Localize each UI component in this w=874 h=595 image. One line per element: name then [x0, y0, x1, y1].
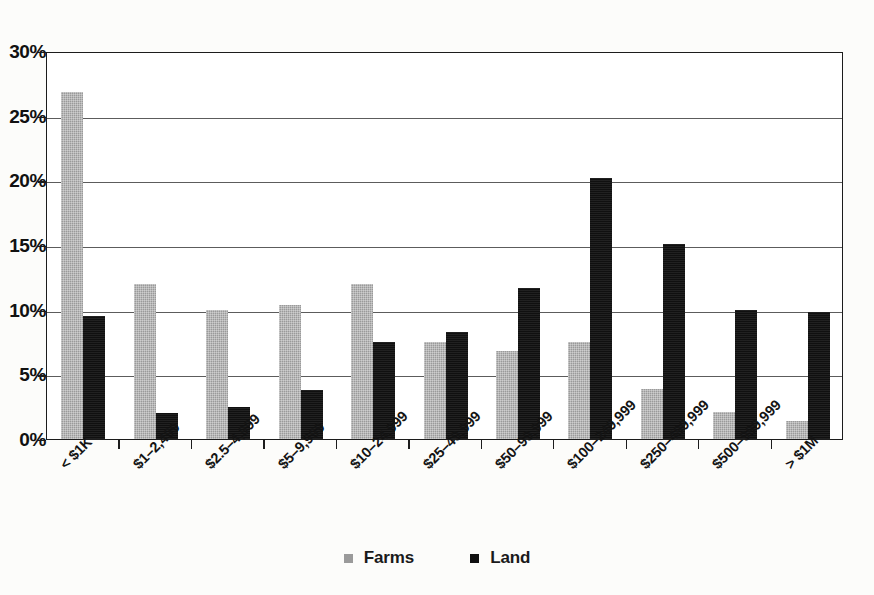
bar-group	[713, 53, 757, 439]
x-axis-tick-mark	[408, 440, 409, 449]
y-axis-tick-mark	[38, 117, 46, 118]
chart-screenshot: 30%25%20%15%10%5%0% < $1K$1–2,499$2.5–4,…	[0, 0, 874, 595]
x-axis-tick-mark	[481, 440, 482, 449]
bar-land	[590, 178, 612, 439]
bar-farms	[568, 342, 590, 439]
y-axis-tick-mark	[38, 311, 46, 312]
plot-area	[46, 52, 843, 440]
x-axis-tick-mark	[336, 440, 337, 449]
bar-farms	[496, 351, 518, 439]
y-axis-tick-mark	[38, 181, 46, 182]
x-axis-tick-mark	[191, 440, 192, 449]
y-axis-tick-mark	[38, 246, 46, 247]
bar-group	[424, 53, 468, 439]
y-axis-tick-mark	[38, 375, 46, 376]
bar-land	[808, 312, 830, 439]
x-axis-tick-mark	[118, 440, 119, 449]
bar-farms	[134, 284, 156, 439]
bar-farms	[713, 412, 735, 439]
x-axis-tick-mark	[771, 440, 772, 449]
bar-group	[786, 53, 830, 439]
x-axis-tick-mark	[626, 440, 627, 449]
bar-farms	[351, 284, 373, 439]
bar-group	[134, 53, 178, 439]
bar-group	[279, 53, 323, 439]
bar-farms	[279, 305, 301, 440]
legend-label: Farms	[364, 548, 415, 568]
x-axis-tick-mark	[698, 440, 699, 449]
chart-legend: FarmsLand	[0, 548, 874, 568]
bar-farms	[206, 310, 228, 439]
bar-farms	[424, 342, 446, 439]
bar-group	[206, 53, 250, 439]
bar-farms	[61, 92, 83, 439]
y-axis-tick-mark	[38, 52, 46, 53]
bar-group	[568, 53, 612, 439]
bar-group	[496, 53, 540, 439]
bar-group	[351, 53, 395, 439]
bar-group	[641, 53, 685, 439]
legend-item: Farms	[344, 548, 415, 568]
legend-swatch-land	[470, 554, 479, 563]
legend-label: Land	[490, 548, 530, 568]
legend-item: Land	[470, 548, 530, 568]
x-axis-tick-mark	[263, 440, 264, 449]
bar-land	[663, 244, 685, 439]
y-axis: 30%25%20%15%10%5%0%	[0, 0, 46, 595]
bar-group	[61, 53, 105, 439]
y-axis-tick-mark	[38, 440, 46, 441]
x-axis-tick-mark	[553, 440, 554, 449]
bar-farms	[641, 389, 663, 439]
bar-land	[83, 316, 105, 439]
legend-swatch-farms	[344, 554, 353, 563]
